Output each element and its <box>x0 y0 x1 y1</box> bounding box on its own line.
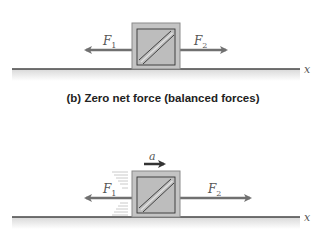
crate-box <box>132 23 180 69</box>
force-label-f2: F2 <box>193 34 207 50</box>
ground-shadow <box>12 217 300 229</box>
acceleration-label: a <box>149 150 156 163</box>
figure-caption: (b) Zero net force (balanced forces) <box>0 92 326 104</box>
panel-accelerating: x a F1 F2 <box>12 150 311 229</box>
force-label-f1: F1 <box>102 34 116 50</box>
force-label-f2: F2 <box>207 182 221 198</box>
crate-box <box>132 171 180 217</box>
panel-balanced-stationary: x F1 F2 <box>12 23 311 81</box>
force-diagram: x F1 F2 x <box>0 0 326 244</box>
x-axis-label: x <box>304 63 311 76</box>
x-axis-label: x <box>304 211 311 224</box>
force-label-f1: F1 <box>102 182 116 198</box>
ground-shadow <box>12 69 300 81</box>
